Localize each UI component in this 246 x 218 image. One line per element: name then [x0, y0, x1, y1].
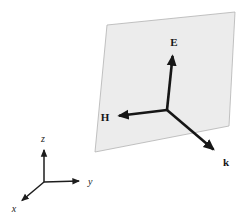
polarization-plane [95, 12, 235, 152]
x-axis: x [11, 182, 44, 214]
e-field-label: E [170, 36, 177, 48]
h-field-label: H [101, 111, 110, 123]
em-wave-figure: E H k z y x [0, 0, 246, 218]
z-axis: z [40, 133, 45, 182]
em-wave-diagram: E H k z y x [0, 0, 246, 218]
k-vector-label: k [223, 156, 230, 168]
y-axis-label: y [87, 176, 93, 187]
x-axis-label: x [11, 203, 17, 214]
coordinate-axes: z y x [11, 133, 93, 214]
z-axis-label: z [40, 133, 45, 144]
y-axis: y [44, 176, 93, 187]
